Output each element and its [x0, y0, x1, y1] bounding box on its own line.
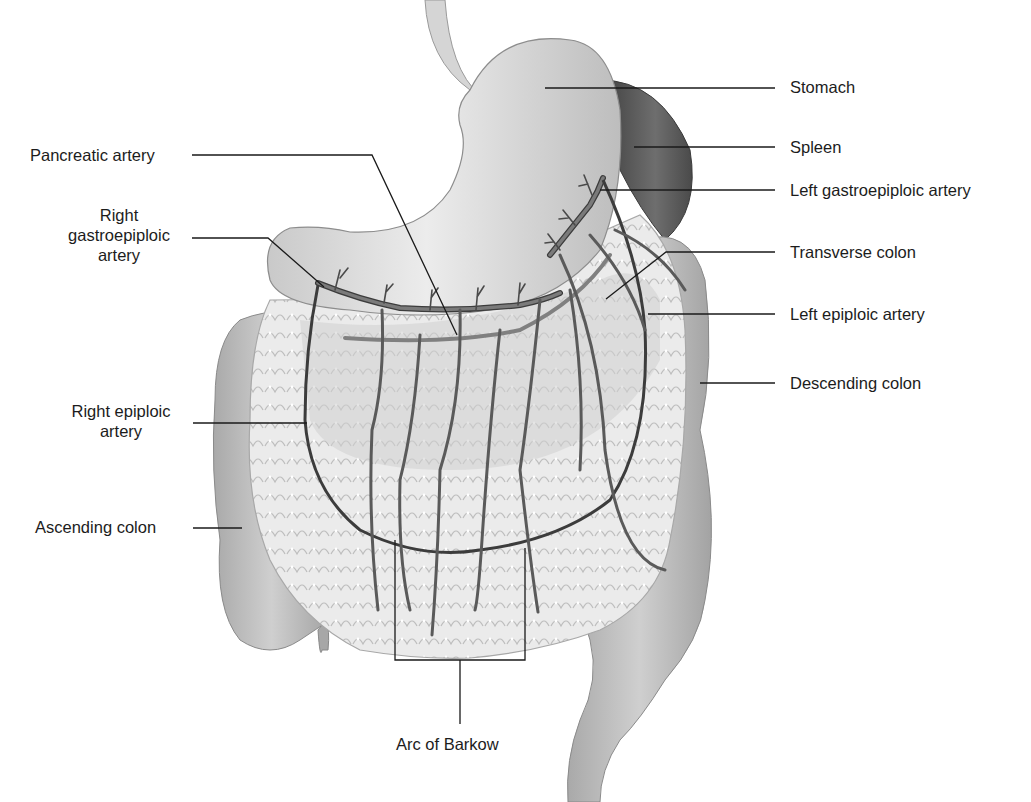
label-right-gastroepiploic-line1: Right	[56, 205, 182, 225]
esophagus	[425, 0, 480, 95]
anatomy-diagram: Stomach Spleen Left gastroepiploic arter…	[0, 0, 1031, 802]
label-right-epiploic-line1: Right epiploic	[58, 401, 184, 421]
label-right-gastroepiploic-line2: gastroepiploic	[56, 225, 182, 245]
label-right-gastroepiploic-line3: artery	[56, 245, 182, 265]
label-transverse-colon: Transverse colon	[790, 242, 916, 262]
label-ascending-colon: Ascending colon	[35, 517, 156, 537]
label-descending-colon: Descending colon	[790, 373, 921, 393]
label-right-gastroepiploic-artery: Right gastroepiploic artery	[56, 205, 182, 265]
label-left-epiploic-artery: Left epiploic artery	[790, 304, 925, 324]
label-pancreatic-artery: Pancreatic artery	[30, 145, 155, 165]
label-right-epiploic-artery: Right epiploic artery	[58, 401, 184, 441]
label-right-epiploic-line2: artery	[58, 421, 184, 441]
label-spleen: Spleen	[790, 137, 841, 157]
label-left-gastroepiploic-artery: Left gastroepiploic artery	[790, 180, 971, 200]
label-stomach: Stomach	[790, 77, 855, 97]
label-arc-of-barkow: Arc of Barkow	[396, 734, 499, 754]
